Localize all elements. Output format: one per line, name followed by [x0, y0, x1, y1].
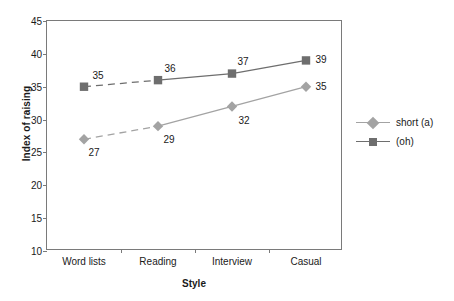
- line-chart: Index of raising 1015202530354045Word li…: [0, 0, 454, 301]
- x-tick-label: Word lists: [62, 256, 106, 267]
- data-point-label: 36: [164, 63, 175, 74]
- x-tick-label: Reading: [139, 256, 176, 267]
- x-tick-label: Casual: [290, 256, 321, 267]
- x-tick-label: Interview: [212, 256, 252, 267]
- y-tick-label: 30: [31, 114, 42, 125]
- data-point-label: 37: [237, 55, 248, 66]
- y-tick-label: 40: [31, 48, 42, 59]
- series-line-segment: [232, 87, 306, 107]
- series-line-segment: [158, 106, 232, 126]
- data-point-label: 35: [315, 80, 326, 91]
- y-tick-mark: [43, 120, 47, 121]
- square-marker-icon: [80, 83, 88, 91]
- x-axis-title: Style: [46, 278, 342, 289]
- plot-area: 1015202530354045Word listsReadingIntervi…: [46, 20, 342, 250]
- y-tick-mark: [43, 54, 47, 55]
- diamond-marker-icon: [227, 101, 237, 111]
- legend-label: (oh): [396, 136, 414, 147]
- y-tick-label: 25: [31, 147, 42, 158]
- legend-item[interactable]: short (a): [356, 113, 452, 132]
- square-marker-icon: [302, 56, 310, 64]
- x-tick-mark: [269, 249, 270, 253]
- y-tick-label: 45: [31, 16, 42, 27]
- series-line-segment: [84, 126, 158, 139]
- data-point-label: 27: [88, 147, 99, 158]
- data-point-label: 35: [92, 69, 103, 80]
- square-marker-icon: [154, 76, 162, 84]
- y-tick-label: 10: [31, 246, 42, 257]
- data-point-label: 39: [315, 54, 326, 65]
- y-tick-mark: [43, 152, 47, 153]
- square-marker-icon: [369, 138, 377, 146]
- y-tick-mark: [43, 185, 47, 186]
- chart-legend: short (a)(oh): [356, 113, 452, 151]
- diamond-marker-icon: [79, 134, 89, 144]
- y-tick-label: 20: [31, 180, 42, 191]
- data-point-label: 32: [238, 115, 249, 126]
- y-tick-mark: [43, 87, 47, 88]
- diamond-marker-icon: [367, 116, 380, 129]
- diamond-marker-icon: [301, 82, 311, 92]
- y-tick-mark: [43, 218, 47, 219]
- square-marker-icon: [228, 69, 236, 77]
- legend-symbol: [356, 135, 390, 149]
- y-tick-mark: [43, 21, 47, 22]
- y-tick-label: 15: [31, 213, 42, 224]
- series-line-segment: [84, 80, 158, 87]
- series-line-segment: [158, 74, 232, 81]
- series-lines: [47, 21, 343, 251]
- data-point-label: 29: [163, 134, 174, 145]
- legend-item[interactable]: (oh): [356, 132, 452, 151]
- y-tick-mark: [43, 251, 47, 252]
- y-tick-label: 35: [31, 81, 42, 92]
- x-tick-mark: [121, 249, 122, 253]
- y-axis-title: Index of raising: [21, 54, 32, 194]
- legend-label: short (a): [396, 117, 433, 128]
- x-tick-mark: [195, 249, 196, 253]
- diamond-marker-icon: [153, 121, 163, 131]
- legend-symbol: [356, 116, 390, 130]
